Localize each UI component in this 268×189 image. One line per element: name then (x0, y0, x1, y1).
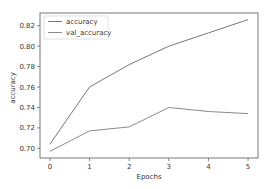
y-tick-label: 0.74 (19, 104, 35, 112)
y-tick-label: 0.76 (19, 84, 35, 92)
legend: accuracy val_accuracy (44, 16, 111, 39)
x-tick-label: 1 (87, 163, 91, 171)
x-tick-label: 5 (246, 163, 250, 171)
x-axis-label: Epochs (136, 173, 161, 181)
y-tick-label: 0.72 (19, 124, 35, 132)
y-tick-label: 0.70 (19, 145, 35, 153)
y-tick-label: 0.78 (19, 63, 35, 71)
legend-label-accuracy: accuracy (66, 18, 98, 26)
line-chart: 012345 0.700.720.740.760.780.800.82 Epoc… (0, 0, 268, 189)
y-tick-label: 0.82 (19, 22, 35, 30)
legend-label-val-accuracy: val_accuracy (66, 29, 111, 37)
y-axis-label: accuracy (9, 72, 17, 104)
x-tick-label: 0 (48, 163, 52, 171)
x-tick-label: 3 (167, 163, 171, 171)
y-tick-label: 0.80 (19, 43, 35, 51)
x-tick-label: 4 (206, 163, 211, 171)
x-tick-label: 2 (127, 163, 131, 171)
